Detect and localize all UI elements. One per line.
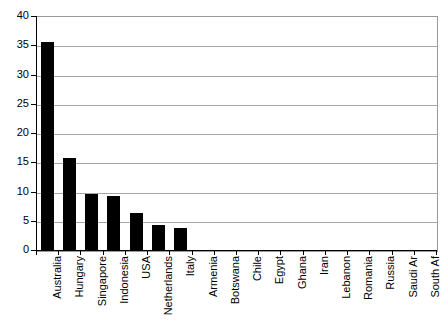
x-tick-mark (414, 251, 415, 255)
bar (107, 196, 120, 250)
x-tick-mark (125, 251, 126, 255)
x-tick-label: Singapore (97, 256, 108, 328)
x-tick-mark (436, 251, 437, 255)
y-tick-mark (31, 45, 36, 46)
bars-layer (36, 16, 437, 250)
x-tick-label: USA (141, 256, 152, 328)
x-tick-label: Indonesia (119, 256, 130, 328)
x-axis-labels: AustraliaHungarySingaporeIndonesiaUSANet… (36, 256, 437, 331)
x-tick-mark (369, 251, 370, 255)
x-tick-mark (280, 251, 281, 255)
y-tick-label: 15 (3, 156, 29, 167)
y-tick-mark (31, 133, 36, 134)
y-tick-mark (31, 162, 36, 163)
x-tick-mark (80, 251, 81, 255)
x-tick-mark (147, 251, 148, 255)
y-tick-mark (31, 221, 36, 222)
bar (174, 228, 187, 250)
y-tick-label: 0 (3, 244, 29, 255)
x-tick-label: Armenia (208, 256, 219, 328)
bar (130, 213, 143, 250)
y-tick-label: 20 (3, 127, 29, 138)
x-tick-mark (192, 251, 193, 255)
x-tick-mark (303, 251, 304, 255)
x-tick-label: Lebanon (341, 256, 352, 328)
y-tick-label: 40 (3, 10, 29, 21)
x-tick-mark (214, 251, 215, 255)
y-tick-mark (31, 192, 36, 193)
y-axis-line (36, 16, 37, 251)
x-tick-label: Saudi Ar (408, 256, 419, 328)
x-tick-mark (258, 251, 259, 255)
x-tick-mark (236, 251, 237, 255)
x-tick-label: Botswana (230, 256, 241, 328)
y-tick-label: 5 (3, 215, 29, 226)
x-tick-label: Ghana (297, 256, 308, 328)
y-tick-label: 25 (3, 98, 29, 109)
y-tick-label: 30 (3, 69, 29, 80)
y-tick-mark (31, 104, 36, 105)
y-tick-mark (31, 16, 36, 17)
x-tick-mark (58, 251, 59, 255)
y-tick-mark (31, 250, 36, 251)
x-tick-label: Netherlands (163, 256, 174, 328)
bar (63, 158, 76, 250)
x-tick-mark (103, 251, 104, 255)
x-tick-label: Romania (363, 256, 374, 328)
x-tick-label: Hungary (74, 256, 85, 328)
bar (85, 194, 98, 250)
bar (152, 225, 165, 250)
x-tick-label: Italy (185, 256, 196, 328)
y-tick-label: 10 (3, 186, 29, 197)
x-tick-mark (325, 251, 326, 255)
y-tick-mark (31, 75, 36, 76)
x-tick-label: South Af (430, 256, 441, 328)
x-tick-label: Iran (319, 256, 330, 328)
bar (41, 42, 54, 250)
x-tick-label: Chile (252, 256, 263, 328)
x-tick-mark (347, 251, 348, 255)
x-tick-label: Russia (385, 256, 396, 328)
x-tick-mark (392, 251, 393, 255)
y-tick-label: 35 (3, 39, 29, 50)
x-tick-mark (36, 251, 37, 255)
x-tick-mark (169, 251, 170, 255)
x-tick-label: Egypt (274, 256, 285, 328)
y-axis-labels: 4035302520151050 (0, 0, 29, 331)
x-tick-label: Australia (52, 256, 63, 328)
bar-chart: 4035302520151050 AustraliaHungarySingapo… (0, 0, 447, 331)
